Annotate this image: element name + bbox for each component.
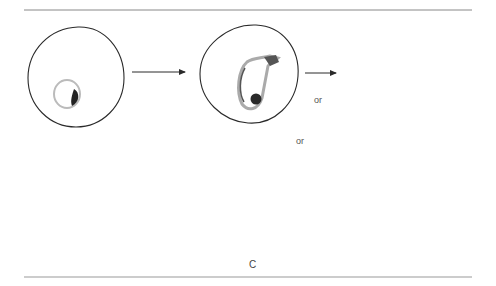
life-cycle-diagram — [0, 0, 496, 286]
trophozoite-cell — [200, 25, 298, 123]
ring-cell — [28, 27, 124, 127]
or-label-upper: or — [314, 96, 322, 105]
or-label-lower: or — [296, 137, 304, 146]
stage-c-label: C — [249, 260, 256, 270]
